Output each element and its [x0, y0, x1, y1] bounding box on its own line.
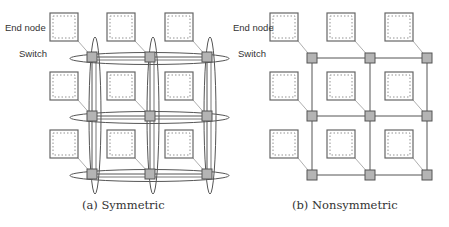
end-node	[385, 13, 413, 41]
switch	[145, 52, 155, 62]
switch	[365, 53, 375, 63]
end-node	[50, 13, 78, 41]
switch	[87, 52, 97, 62]
switch	[365, 111, 375, 121]
end-node	[270, 13, 298, 41]
caption-symmetric: (a) Symmetric	[82, 198, 165, 212]
end-node	[107, 130, 135, 158]
switch	[307, 111, 317, 121]
end-node	[50, 72, 78, 100]
end-node	[107, 13, 135, 41]
switch-label: Switch	[19, 48, 47, 59]
switch	[202, 52, 212, 62]
end-node	[327, 72, 355, 100]
switch	[422, 111, 432, 121]
interconnect-diagram: End node Switch End node Switch (a) Symm…	[0, 0, 449, 227]
switch	[422, 53, 432, 63]
end-node	[385, 72, 413, 100]
switch	[145, 169, 155, 179]
switch	[202, 169, 212, 179]
end-node	[165, 72, 193, 100]
end-node	[270, 130, 298, 158]
switch-label-b: Switch	[238, 48, 266, 59]
switch	[422, 170, 432, 180]
end-node-label-b: End node	[233, 22, 274, 33]
panel-symmetric	[50, 13, 229, 194]
end-node	[50, 130, 78, 158]
switch	[307, 53, 317, 63]
caption-nonsymmetric: (b) Nonsymmetric	[292, 198, 398, 212]
end-node	[270, 72, 298, 100]
switch	[87, 169, 97, 179]
panel-nonsymmetric	[270, 13, 432, 180]
end-node-label: End node	[5, 22, 46, 33]
end-node	[165, 13, 193, 41]
switch	[307, 170, 317, 180]
switch	[87, 111, 97, 121]
end-node	[327, 13, 355, 41]
switch	[145, 111, 155, 121]
end-node	[327, 130, 355, 158]
end-node	[165, 130, 193, 158]
end-node	[385, 130, 413, 158]
switch	[202, 111, 212, 121]
switch	[365, 170, 375, 180]
end-node	[107, 72, 135, 100]
